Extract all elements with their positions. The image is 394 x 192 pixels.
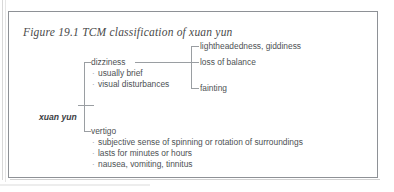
branch-connector-vertigo — [84, 131, 91, 132]
root-connector-line — [78, 105, 94, 106]
manifestation-bracket-spine — [191, 46, 192, 88]
manifestation-label-3: fainting — [200, 83, 227, 93]
feature-text: nausea, vomiting, tinnitus — [98, 159, 193, 169]
manifestation-label-1: lightheadedness, giddiness — [200, 41, 301, 51]
scan-page-edge-inner — [5, 0, 6, 182]
feature-item-vertigo-2: ·lasts for minutes or hours — [92, 148, 192, 159]
feature-text: subjective sense of spinning or rotation… — [98, 137, 303, 147]
feature-text: visual disturbances — [98, 79, 169, 89]
feature-text: usually brief — [98, 68, 143, 78]
feature-item-vertigo-3: ·nausea, vomiting, tinnitus — [92, 159, 193, 170]
feature-item-dizziness-2: ·visual disturbances — [92, 79, 169, 90]
manifestation-connector-1 — [191, 46, 199, 47]
branch-connector-dizziness — [84, 62, 91, 63]
branch-label-vertigo: vertigo — [91, 126, 116, 136]
feature-item-vertigo-1: ·subjective sense of spinning or rotatio… — [92, 137, 303, 148]
scan-artifact — [0, 184, 150, 186]
scan-page-edge-left — [2, 0, 3, 180]
main-bracket-spine — [84, 62, 85, 131]
manifestation-label-2: loss of balance — [200, 57, 256, 67]
root-node-label: xuan yun — [39, 112, 77, 122]
figure-caption: Figure 19.1 TCM classification of xuan y… — [23, 25, 233, 39]
manifestation-connector-3 — [191, 88, 199, 89]
figure-frame: Figure 19.1 TCM classification of xuan y… — [8, 11, 378, 178]
dizziness-to-manifestations-line — [135, 62, 191, 63]
manifestation-connector-2 — [191, 62, 199, 63]
feature-item-dizziness-1: ·usually brief — [92, 68, 143, 79]
branch-label-dizziness: dizziness — [91, 57, 125, 67]
feature-text: lasts for minutes or hours — [98, 148, 192, 158]
